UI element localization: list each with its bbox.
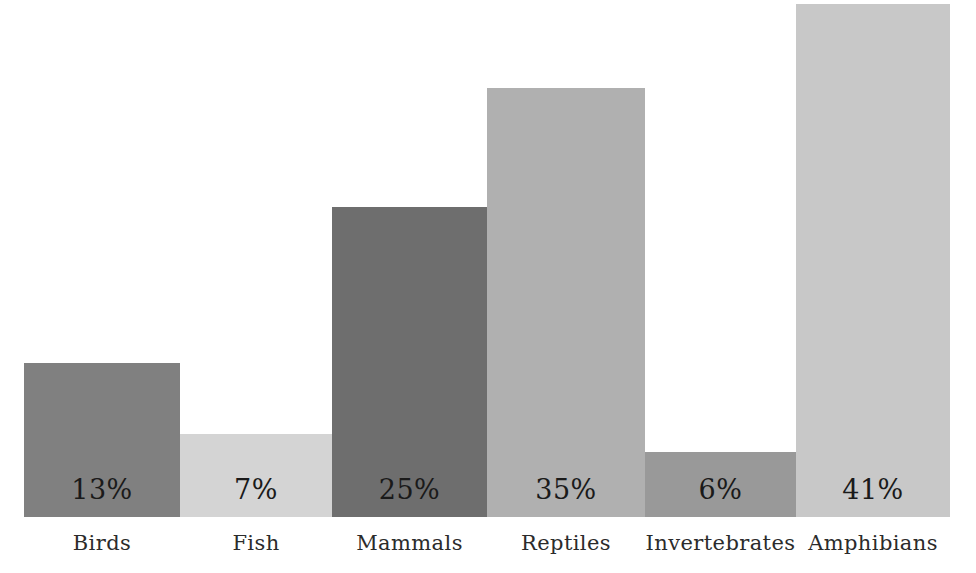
- bar-group-invertebrates[interactable]: 6%: [645, 452, 796, 517]
- bar-amphibians[interactable]: [796, 4, 950, 517]
- category-axis: Birds Fish Mammals Reptiles Invertebrate…: [0, 517, 976, 573]
- bar-group-mammals[interactable]: 25%: [332, 207, 487, 517]
- bar-value-birds: 13%: [24, 476, 180, 503]
- bar-group-birds[interactable]: 13%: [24, 363, 180, 517]
- bar-value-reptiles: 35%: [487, 476, 645, 503]
- axis-label-amphibians: Amphibians: [796, 533, 950, 554]
- axis-label-birds: Birds: [24, 533, 180, 554]
- bar-group-reptiles[interactable]: 35%: [487, 88, 645, 517]
- axis-label-mammals: Mammals: [332, 533, 487, 554]
- bar-group-fish[interactable]: 7%: [180, 434, 332, 517]
- bar-value-mammals: 25%: [332, 476, 487, 503]
- bar-mammals[interactable]: [332, 207, 487, 517]
- bar-reptiles[interactable]: [487, 88, 645, 517]
- axis-label-reptiles: Reptiles: [487, 533, 645, 554]
- bar-group-amphibians[interactable]: 41%: [796, 4, 950, 517]
- bar-chart: 13% 7% 25% 35% 6% 41% Birds Fish Mammals…: [0, 0, 976, 573]
- bar-value-amphibians: 41%: [796, 476, 950, 503]
- bar-value-fish: 7%: [180, 476, 332, 503]
- plot-area: 13% 7% 25% 35% 6% 41%: [0, 0, 976, 517]
- axis-label-invertebrates: Invertebrates: [645, 533, 796, 554]
- axis-label-fish: Fish: [180, 533, 332, 554]
- bar-value-invertebrates: 6%: [645, 476, 796, 503]
